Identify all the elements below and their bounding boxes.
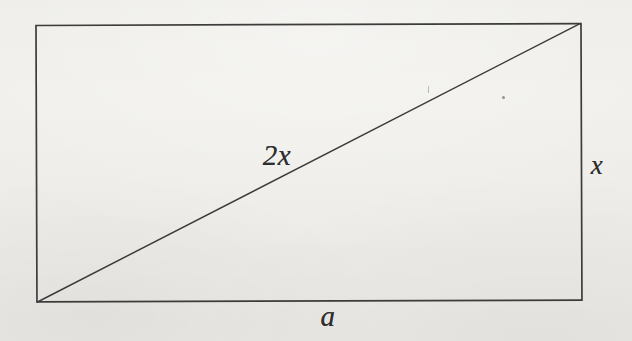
diagonal-line (36, 24, 580, 302)
bottom-side-length-label: a (321, 302, 336, 331)
right-side-length-label: x (591, 152, 603, 179)
scan-speck (502, 96, 505, 99)
figure-canvas (0, 0, 632, 341)
diagonal-length-label: 2x (263, 141, 291, 170)
scan-speck (428, 86, 429, 93)
scanned-textbook-figure: 2x x a (0, 0, 632, 341)
